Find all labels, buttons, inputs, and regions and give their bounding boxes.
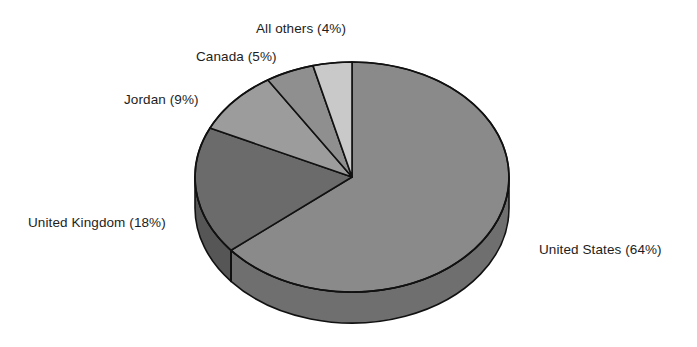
slice-label-jordan: Jordan (9%) <box>124 93 199 107</box>
pie-chart-figure: All others (4%) Canada (5%) Jordan (9%) … <box>0 0 697 347</box>
slice-label-all-others: All others (4%) <box>256 22 346 36</box>
pie-chart-canvas <box>0 0 697 347</box>
pie-slices-group <box>195 62 509 323</box>
slice-label-united-kingdom: United Kingdom (18%) <box>28 216 166 230</box>
slice-label-canada: Canada (5%) <box>196 50 277 64</box>
slice-label-united-states: United States (64%) <box>539 243 662 257</box>
